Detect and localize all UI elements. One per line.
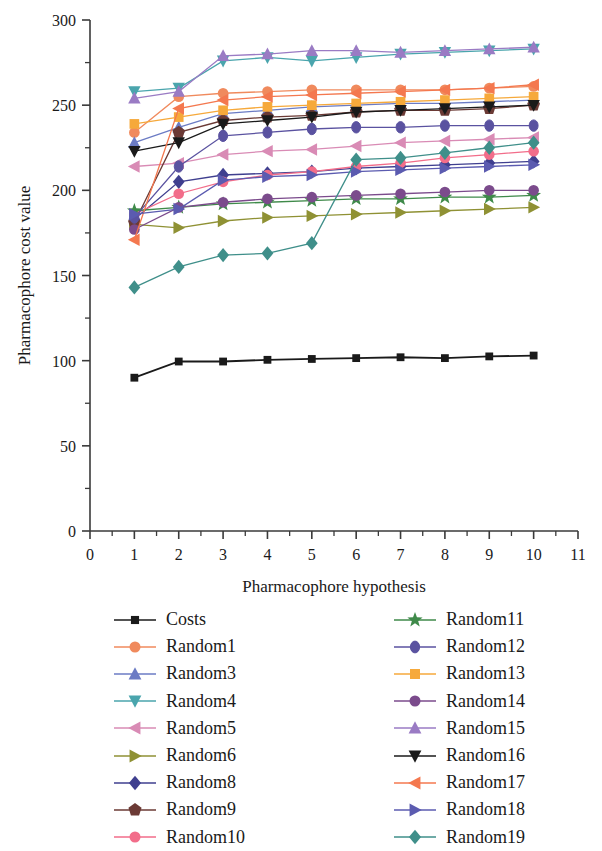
legend-marker-random11 — [392, 609, 438, 631]
marker-square — [175, 358, 183, 366]
marker-triangle-left — [408, 776, 420, 789]
chart-canvas: 05010015020025030001234567891011Pharmaco… — [0, 0, 602, 600]
legend-item-random6[interactable]: Random6 — [112, 742, 245, 769]
y-tick-label: 150 — [52, 268, 76, 285]
y-axis-title: Pharmacophore cost value — [15, 186, 34, 365]
marker-circle — [409, 696, 420, 707]
y-tick-label: 200 — [52, 182, 76, 199]
legend-label: Random10 — [166, 827, 245, 848]
marker-triangle-right — [484, 203, 496, 215]
legend-column-left: CostsRandom1Random3Random4Random5Random6… — [112, 606, 245, 851]
marker-triangle-left — [438, 135, 450, 147]
legend-label: Random4 — [166, 691, 236, 712]
legend-marker-random12 — [392, 636, 438, 658]
legend-marker-random5 — [112, 717, 158, 739]
marker-diamond — [173, 175, 185, 189]
marker-circle — [173, 188, 184, 199]
legend-marker-random19 — [392, 826, 438, 848]
legend-item-random13[interactable]: Random13 — [392, 660, 525, 687]
legend-item-random17[interactable]: Random17 — [392, 769, 525, 796]
legend-item-random8[interactable]: Random8 — [112, 769, 245, 796]
marker-square — [131, 616, 139, 624]
marker-circle-open — [219, 130, 228, 141]
legend-item-random11[interactable]: Random11 — [392, 606, 525, 633]
marker-triangle-left — [350, 140, 362, 152]
marker-square — [485, 353, 493, 361]
legend-label: Random6 — [166, 745, 236, 766]
marker-diamond — [217, 248, 229, 262]
marker-star — [407, 612, 422, 626]
marker-circle-open — [440, 120, 449, 131]
legend-item-random1[interactable]: Random1 — [112, 633, 245, 660]
legend-label: Random15 — [446, 718, 525, 739]
legend-marker-random9 — [112, 799, 158, 821]
legend-label: Random19 — [446, 827, 525, 848]
x-tick-label: 11 — [570, 546, 585, 563]
legend-item-random5[interactable]: Random5 — [112, 715, 245, 742]
legend-item-random14[interactable]: Random14 — [392, 688, 525, 715]
x-tick-label: 4 — [263, 546, 271, 563]
marker-square — [218, 105, 228, 115]
legend-item-random16[interactable]: Random16 — [392, 742, 525, 769]
marker-circle-open — [307, 123, 316, 134]
legend-item-random19[interactable]: Random19 — [392, 824, 525, 851]
marker-triangle-right — [307, 210, 319, 222]
x-tick-label: 9 — [485, 546, 493, 563]
marker-square — [130, 374, 138, 382]
marker-square — [130, 119, 140, 129]
marker-square — [308, 355, 316, 363]
legend-item-random10[interactable]: Random10 — [112, 824, 245, 851]
legend-marker-random16 — [392, 745, 438, 767]
legend-item-random3[interactable]: Random3 — [112, 660, 245, 687]
legend-item-random15[interactable]: Random15 — [392, 715, 525, 742]
legend-marker-random3 — [112, 663, 158, 685]
series-random18 — [129, 159, 540, 221]
series-line — [134, 49, 533, 92]
marker-triangle-left — [261, 145, 273, 157]
legend-label: Random17 — [446, 772, 525, 793]
marker-diamond — [173, 260, 185, 274]
legend-label: Random1 — [166, 636, 236, 657]
marker-circle-open — [529, 120, 538, 131]
marker-circle — [129, 832, 140, 843]
legend-item-random4[interactable]: Random4 — [112, 688, 245, 715]
marker-triangle-left — [217, 148, 229, 160]
series-random17 — [128, 79, 539, 246]
marker-diamond — [409, 830, 421, 845]
legend-item-costs[interactable]: Costs — [112, 606, 245, 633]
legend-item-random12[interactable]: Random12 — [392, 633, 525, 660]
legend-marker-random18 — [392, 799, 438, 821]
marker-triangle-right — [440, 205, 452, 217]
marker-triangle-right — [351, 208, 363, 220]
legend-label: Random9 — [166, 799, 236, 820]
series-line — [134, 207, 533, 227]
legend-label: Random3 — [166, 663, 236, 684]
marker-triangle-right — [410, 804, 422, 817]
marker-triangle-right — [130, 749, 142, 762]
marker-square — [352, 354, 360, 362]
marker-circle-open — [396, 122, 405, 133]
marker-square — [397, 353, 405, 361]
legend-marker-random14 — [392, 690, 438, 712]
pharmacophore-cost-chart-figure: 05010015020025030001234567891011Pharmaco… — [0, 0, 602, 851]
legend-marker-random6 — [112, 745, 158, 767]
marker-circle-open — [263, 127, 272, 138]
marker-circle — [218, 197, 229, 208]
marker-pentagon — [128, 803, 141, 816]
x-tick-label: 3 — [219, 546, 227, 563]
legend-item-random18[interactable]: Random18 — [392, 796, 525, 823]
legend-label: Costs — [166, 609, 206, 630]
marker-circle — [528, 185, 539, 196]
marker-square — [410, 669, 420, 679]
marker-triangle-left — [305, 143, 317, 155]
legend-item-random9[interactable]: Random9 — [112, 796, 245, 823]
marker-triangle-left — [394, 136, 406, 148]
x-tick-label: 5 — [308, 546, 316, 563]
y-tick-label: 50 — [60, 438, 76, 455]
plot-area: 05010015020025030001234567891011Pharmaco… — [0, 0, 602, 600]
marker-square — [219, 358, 227, 366]
y-tick-label: 100 — [52, 353, 76, 370]
series-line — [134, 138, 533, 167]
marker-triangle-left — [128, 234, 140, 246]
y-tick-label: 0 — [68, 523, 76, 540]
